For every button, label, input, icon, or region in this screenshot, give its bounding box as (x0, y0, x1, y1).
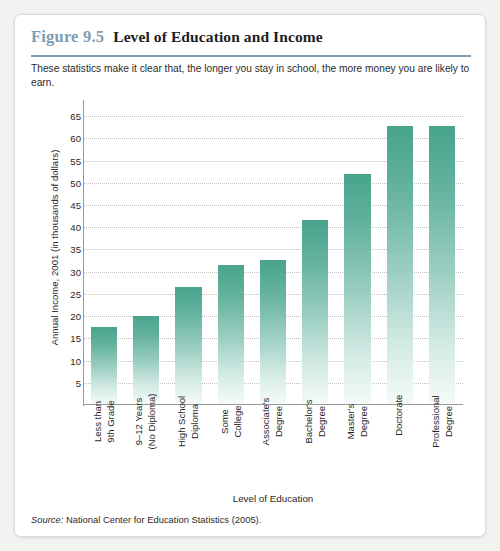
figure-title: Level of Education and Income (113, 28, 323, 46)
y-axis-tick-label: 25 (41, 288, 81, 299)
figure-header: Figure 9.5 Level of Education and Income (31, 27, 469, 53)
header-divider (31, 55, 471, 57)
bar (429, 126, 455, 404)
y-axis-tick-label: 20 (41, 311, 81, 322)
bar (175, 287, 201, 404)
figure-source: Source: National Center for Education St… (31, 514, 261, 525)
y-axis-tick-label: 30 (41, 266, 81, 277)
x-axis-tick-label: Bachelor'sDegree (294, 409, 336, 504)
chart-area: Annual Income, 2001 (in thousands of dol… (15, 87, 485, 507)
x-axis-tick-label: ProfessionalDegree (421, 409, 463, 504)
y-axis-tick-label: 5 (41, 377, 81, 388)
bar (260, 260, 286, 404)
bar (387, 126, 413, 404)
figure-card: Figure 9.5 Level of Education and Income… (14, 14, 486, 537)
y-axis-tick-label: 65 (41, 111, 81, 122)
bar (91, 327, 117, 404)
y-axis-tick-label: 50 (41, 177, 81, 188)
bar (302, 220, 328, 404)
x-axis-tick-label: Less than9th Grade (83, 409, 125, 504)
x-axis-tick-label: High SchoolDiploma (167, 409, 209, 504)
bar (344, 174, 370, 404)
y-axis-tick-label: 35 (41, 244, 81, 255)
plot-area: 5101520253035404550556065 (83, 105, 463, 405)
x-axis-tick-label: SomeCollege (210, 409, 252, 504)
source-text: National Center for Education Statistics… (66, 514, 261, 525)
y-axis-tick-label: 55 (41, 155, 81, 166)
figure-number: Figure 9.5 (31, 27, 104, 47)
y-axis-tick-label: 10 (41, 355, 81, 366)
y-axis-tick-label: 15 (41, 333, 81, 344)
y-axis-tick-label: 60 (41, 133, 81, 144)
source-label: Source: (31, 514, 63, 525)
y-axis-tick-label: 40 (41, 222, 81, 233)
y-axis-tick-label: 45 (41, 200, 81, 211)
gridline (84, 116, 463, 117)
x-axis-tick-label: Associate'sDegree (252, 409, 294, 504)
bar (218, 265, 244, 404)
x-axis-tick-label: Master'sDegree (336, 409, 378, 504)
x-axis-tick-label: Doctorate (379, 409, 421, 504)
x-axis-tick-label: 9–12 Years(No Diploma) (125, 409, 167, 504)
bar (133, 316, 159, 404)
figure-subtitle: These statistics make it clear that, the… (31, 62, 475, 90)
